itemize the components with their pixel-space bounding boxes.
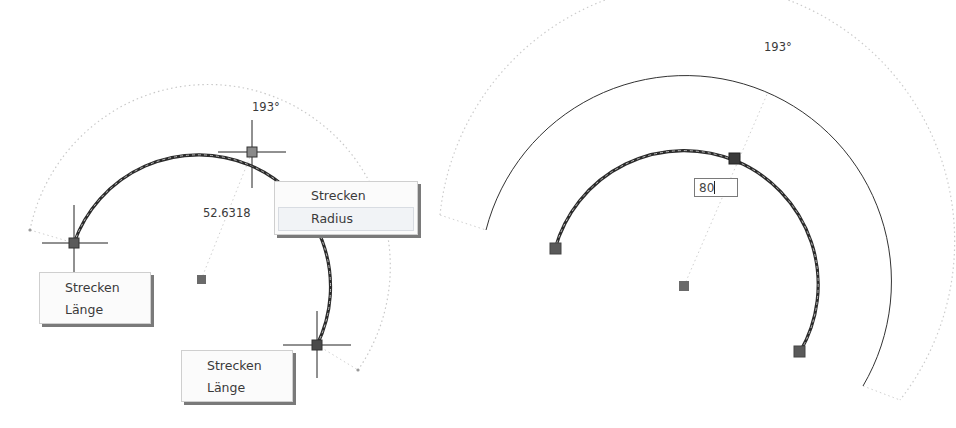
- grip-start[interactable]: [550, 243, 561, 254]
- menu-item-laenge[interactable]: Länge: [40, 299, 150, 321]
- grip-center[interactable]: [197, 275, 206, 284]
- grip-start[interactable]: [69, 238, 79, 248]
- angle-endpoint-dot: [356, 368, 359, 371]
- menu-item-radius[interactable]: Radius: [278, 207, 414, 231]
- angle-dimension-arc: [440, 0, 955, 400]
- radius-input-value: 80: [699, 181, 714, 195]
- menu-item-strecken[interactable]: Strecken: [275, 185, 417, 207]
- radius-label: 52.6318: [203, 206, 251, 220]
- grip-midpoint[interactable]: [247, 147, 257, 157]
- grip-menu-midpoint: Strecken Radius: [274, 181, 418, 235]
- selected-arc[interactable]: [555, 151, 818, 352]
- angle-endpoint-dot: [28, 228, 31, 231]
- right-arc-view: [440, 0, 955, 400]
- angle-guide-end: [863, 386, 900, 400]
- radius-input[interactable]: 80: [694, 178, 738, 197]
- grip-midpoint[interactable]: [729, 153, 740, 164]
- grip-end[interactable]: [312, 340, 322, 350]
- grip-menu-start: Strecken Länge: [39, 272, 151, 324]
- menu-item-strecken[interactable]: Strecken: [40, 277, 150, 299]
- angle-guide-start: [440, 215, 486, 230]
- angle-label: 193°: [252, 100, 280, 114]
- preview-arc: [486, 76, 891, 386]
- grip-menu-end: Strecken Länge: [181, 350, 293, 402]
- angle-guide-start: [30, 230, 74, 243]
- menu-item-laenge[interactable]: Länge: [182, 377, 292, 399]
- text-caret: [714, 181, 715, 194]
- grip-end[interactable]: [794, 346, 805, 357]
- grip-center[interactable]: [679, 281, 689, 291]
- angle-guide-end: [317, 345, 358, 370]
- angle-label: 193°: [764, 40, 792, 54]
- menu-item-strecken[interactable]: Strecken: [182, 355, 292, 377]
